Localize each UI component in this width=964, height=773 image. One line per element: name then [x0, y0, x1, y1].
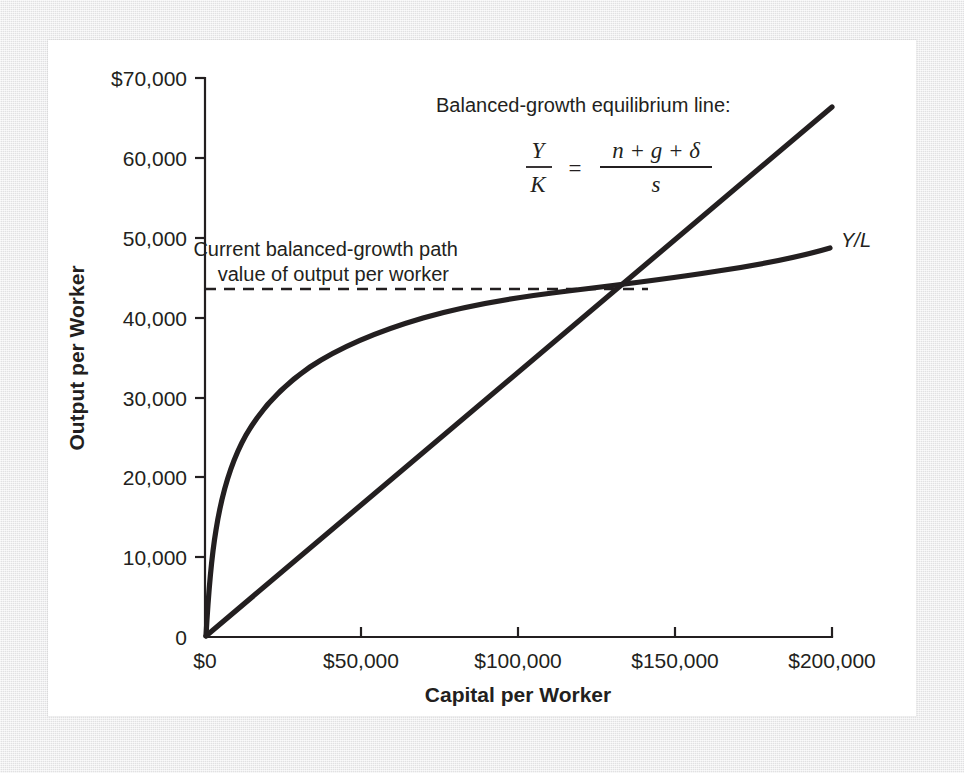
x-tick-label-100000: $100,000 — [474, 649, 562, 672]
y-tick-label-10000: 10,000 — [123, 546, 187, 569]
equilibrium-line-title: Balanced-growth equilibrium line: — [436, 94, 731, 116]
current-path-annotation: Current balanced-growth path value of ou… — [193, 238, 458, 285]
formula-lhs-denominator: K — [529, 172, 547, 197]
current-path-annotation-line1: Current balanced-growth path — [193, 238, 458, 260]
y-tick-label-30000: 30,000 — [123, 387, 187, 410]
y-axis — [195, 78, 205, 637]
y-tick-label-20000: 20,000 — [123, 466, 187, 489]
formula-rhs-numerator: n + g + δ — [612, 138, 700, 163]
formula-rhs-denominator: s — [652, 172, 661, 197]
formula-lhs-numerator: Y — [532, 138, 547, 163]
balanced-growth-formula: Y K = n + g + δ s — [526, 138, 712, 197]
x-tick-label-200000: $200,000 — [788, 649, 876, 672]
formula-equals-sign: = — [569, 156, 582, 181]
x-tick-label-50000: $50,000 — [323, 649, 399, 672]
x-axis — [205, 627, 832, 637]
output-per-worker-curve — [206, 248, 830, 636]
x-tick-label-0: $0 — [193, 649, 216, 672]
current-path-annotation-line2: value of output per worker — [218, 263, 450, 285]
y-tick-label-60000: 60,000 — [123, 147, 187, 170]
solow-growth-chart: $70,000 60,000 50,000 40,000 30,000 20,0… — [48, 40, 916, 716]
y-tick-label-40000: 40,000 — [123, 307, 187, 330]
y-axis-title: Output per Worker — [65, 265, 88, 450]
x-axis-title: Capital per Worker — [425, 683, 611, 706]
x-tick-label-150000: $150,000 — [631, 649, 719, 672]
y-tick-label-0: 0 — [175, 626, 187, 649]
y-tick-label-50000: 50,000 — [123, 227, 187, 250]
equilibrium-annotation: Balanced-growth equilibrium line: Y K = … — [436, 94, 731, 197]
y-tick-label-70000: $70,000 — [111, 67, 187, 90]
series-label-y-over-l: Y/L — [841, 229, 871, 251]
